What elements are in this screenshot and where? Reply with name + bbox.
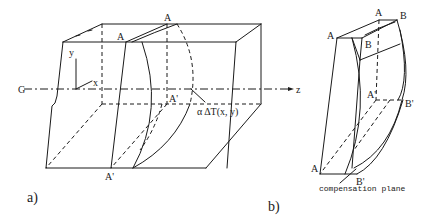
z-axis-arrowhead — [288, 87, 294, 91]
front-face-left-edge — [46, 42, 63, 168]
axis-label-z: z — [296, 84, 301, 95]
hidden-back-diagonal — [46, 104, 102, 168]
top-edge-arrow-mark — [76, 30, 92, 36]
figure-b: A A B B A' B' A B' compensation plane b) — [268, 7, 414, 215]
b-label-A-prime: A' — [367, 89, 376, 100]
deformed-section-top-curve — [132, 24, 177, 42]
deformed-section-back-curve — [177, 24, 193, 104]
caption-a: a) — [27, 190, 38, 206]
b-hidden-diagonal — [320, 100, 376, 174]
label-A-front: A — [117, 31, 125, 42]
top-face-left-edge — [63, 24, 102, 42]
label-A-back: A — [164, 12, 172, 23]
b-label-B-inner: B — [365, 39, 372, 50]
axis-label-x: x — [93, 77, 98, 88]
label-A-prime-bottom: A' — [105, 171, 114, 182]
caption-b: b) — [268, 199, 280, 215]
b-right-vertical — [352, 60, 360, 168]
axis-label-y: y — [69, 47, 74, 58]
b-left-edge — [320, 38, 337, 174]
x-axis — [76, 81, 92, 89]
section-A-top-slant — [126, 24, 167, 42]
deformed-section-front-curve — [133, 42, 152, 168]
deformation-leader-line — [191, 89, 205, 102]
figure-a: G z x y A A A' A' α ΔT(x, y) a) — [18, 12, 301, 206]
b-label-A-top: A — [375, 7, 383, 18]
compensation-plane-label: compensation plane — [319, 184, 406, 193]
thermal-deformation-diagram: G z x y A A A' A' α ΔT(x, y) a) — [0, 0, 426, 222]
b-hidden-vertical — [376, 20, 379, 100]
deformed-section-bottom-curve — [133, 104, 190, 168]
section-A-front-vertical — [111, 42, 126, 168]
label-alpha-delta-T: α ΔT(x, y) — [197, 106, 238, 118]
b-right-curve-inner — [398, 30, 405, 100]
top-face-right-edge — [236, 24, 261, 42]
right-face-front-edge — [227, 42, 236, 168]
b-hidden-diagonal-2 — [354, 100, 390, 150]
b-label-A-left: A — [327, 30, 335, 41]
b-compensation-leader — [340, 169, 356, 183]
b-label-B-prime-mid: B' — [405, 98, 414, 109]
b-top-left-slant — [337, 20, 379, 38]
b-inner-face-right — [360, 38, 362, 60]
label-A-prime-mid: A' — [169, 93, 178, 104]
b-label-B-top: B — [400, 10, 407, 21]
b-label-A-bottom: A — [311, 163, 319, 174]
axis-label-G: G — [18, 84, 25, 95]
